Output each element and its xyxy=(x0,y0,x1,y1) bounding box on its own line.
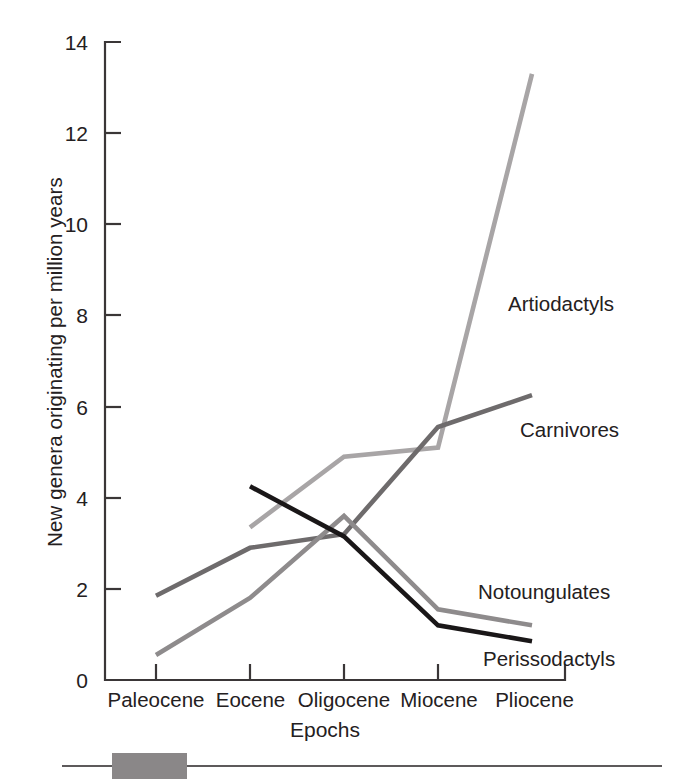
x-tick-label-miocene: Miocene xyxy=(394,690,484,711)
x-tick-label-pliocene: Pliocene xyxy=(487,690,582,711)
x-tick-marks xyxy=(156,664,438,680)
series-line-carnivores xyxy=(156,395,532,596)
line-chart-figure: New genera originating per million years… xyxy=(0,0,675,780)
series-label-artiodactyls: Artiodactyls xyxy=(508,294,614,315)
x-tick-label-oligocene: Oligocene xyxy=(294,690,394,711)
x-tick-label-eocene: Eocene xyxy=(208,690,293,711)
series-label-notoungulates: Notoungulates xyxy=(478,582,610,603)
footer-block xyxy=(112,753,187,779)
series-label-carnivores: Carnivores xyxy=(520,420,619,441)
series-label-perissodactyls: Perissodactyls xyxy=(483,649,615,670)
data-series-layer xyxy=(156,74,532,655)
x-tick-label-paleocene: Paleocene xyxy=(106,690,206,711)
x-axis-title: Epochs xyxy=(0,718,650,742)
y-tick-marks xyxy=(105,133,121,589)
series-line-artiodactyls xyxy=(250,74,532,527)
